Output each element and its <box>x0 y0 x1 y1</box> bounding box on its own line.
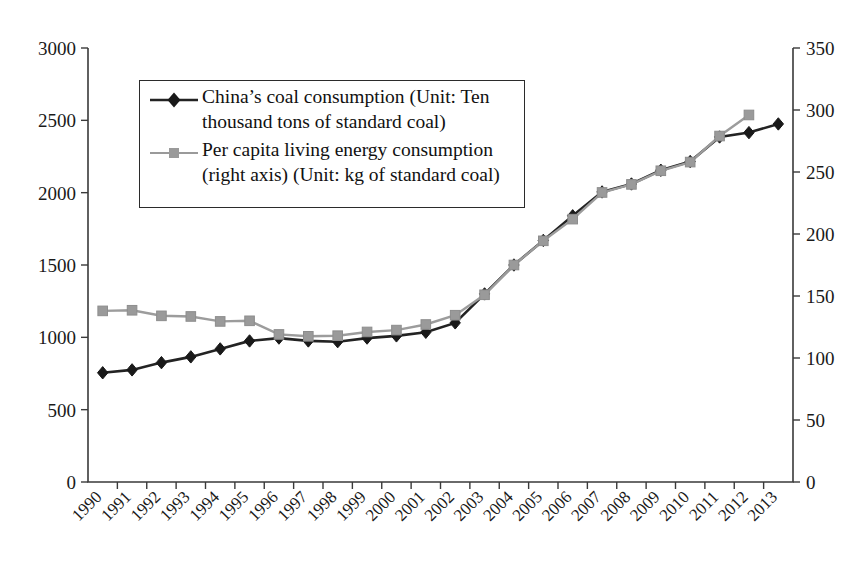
x-axis-tick-label: 2007 <box>567 487 605 525</box>
y-right-tick-label: 200 <box>806 224 835 245</box>
data-point-per-capita-energy <box>597 188 607 198</box>
data-point-per-capita-energy <box>450 310 460 320</box>
data-point-per-capita-energy <box>744 110 754 120</box>
data-point-per-capita-energy <box>421 320 431 330</box>
legend-label-coal-line1: China’s coal consumption (Unit: Ten <box>202 86 490 107</box>
y-right-tick-label: 50 <box>806 410 825 431</box>
data-point-per-capita-energy <box>186 312 196 322</box>
legend-label-energy-line2: (right axis) (Unit: kg of standard coal) <box>202 164 500 185</box>
data-point-per-capita-energy <box>656 166 666 176</box>
x-axis-tick-label: 2010 <box>656 487 693 524</box>
legend-label-per-capita-energy: Per capita living energy consumption (ri… <box>200 137 500 187</box>
y-right-tick-label: 250 <box>806 162 835 183</box>
y-right-tick-label: 150 <box>806 286 835 307</box>
x-axis-tick-label: 2006 <box>538 487 575 524</box>
y-left-tick-label: 1000 <box>38 327 76 348</box>
data-point-per-capita-energy <box>98 306 108 316</box>
x-axis-labels: 1990199119921993199419951996199719981999… <box>68 482 781 525</box>
data-point-per-capita-energy <box>627 180 637 190</box>
y-left-tick-label: 500 <box>48 400 77 421</box>
x-axis-tick-label: 1996 <box>244 487 281 524</box>
data-point-per-capita-energy <box>157 311 167 321</box>
data-point-coal-consumption <box>97 367 107 379</box>
x-axis-tick-label: 1998 <box>303 487 340 524</box>
legend-label-coal-line2: thousand tons of standard coal) <box>202 111 446 132</box>
x-axis-tick-label: 1995 <box>215 487 252 524</box>
x-axis-tick-label: 2005 <box>509 487 546 524</box>
x-axis-tick-label: 2004 <box>479 487 517 525</box>
y-left-tick-label: 0 <box>67 472 77 493</box>
data-point-per-capita-energy <box>509 260 519 270</box>
x-axis-tick-label: 2003 <box>450 487 487 524</box>
data-point-coal-consumption <box>744 126 754 138</box>
x-axis-tick-label: 2009 <box>626 487 663 524</box>
chart-legend: China’s coal consumption (Unit: Ten thou… <box>139 80 525 208</box>
y-right-tick-label: 100 <box>806 348 835 369</box>
x-axis-tick-label: 1994 <box>186 487 224 525</box>
data-point-per-capita-energy <box>274 330 284 340</box>
y-right-tick-label: 350 <box>806 38 835 59</box>
x-axis-tick-label: 1992 <box>127 487 164 524</box>
data-point-per-capita-energy <box>304 332 314 342</box>
x-axis-tick-label: 2008 <box>597 487 634 524</box>
legend-label-energy-line1: Per capita living energy consumption <box>202 139 493 160</box>
x-axis-tick-label: 1991 <box>97 487 134 524</box>
y-left-tick-label: 1500 <box>38 255 76 276</box>
data-point-coal-consumption <box>186 351 196 363</box>
chart-container: 0500100015002000250030000501001502002503… <box>0 0 868 563</box>
x-axis-tick-label: 2000 <box>362 487 399 524</box>
x-axis-tick-label: 1999 <box>332 487 369 524</box>
legend-entry-coal-consumption: China’s coal consumption (Unit: Ten thou… <box>140 81 524 134</box>
data-point-per-capita-energy <box>215 317 225 327</box>
data-point-coal-consumption <box>773 118 783 130</box>
x-axis-tick-label: 2001 <box>391 487 428 524</box>
x-axis-tick-label: 1997 <box>274 487 312 525</box>
y-left-tick-label: 3000 <box>38 38 76 59</box>
data-point-coal-consumption <box>215 343 225 355</box>
data-point-coal-consumption <box>244 335 254 347</box>
y-right-tick-label: 300 <box>806 100 835 121</box>
data-point-per-capita-energy <box>715 131 725 141</box>
x-axis-tick-label: 1990 <box>68 487 105 524</box>
data-point-coal-consumption <box>127 364 137 376</box>
y-left-tick-label: 2500 <box>38 110 76 131</box>
x-axis-tick-label: 2012 <box>714 487 751 524</box>
x-axis-tick-label: 1993 <box>156 487 193 524</box>
y-right-tick-label: 0 <box>806 472 816 493</box>
data-point-per-capita-energy <box>245 316 255 326</box>
data-point-per-capita-energy <box>392 325 402 335</box>
x-axis-tick-label: 2013 <box>744 487 781 524</box>
data-point-per-capita-energy <box>362 327 372 337</box>
data-point-per-capita-energy <box>333 331 343 341</box>
y-left-tick-label: 2000 <box>38 183 76 204</box>
data-point-per-capita-energy <box>685 157 695 167</box>
data-point-coal-consumption <box>156 356 166 368</box>
data-point-per-capita-energy <box>127 305 137 315</box>
legend-entry-per-capita-energy: Per capita living energy consumption (ri… <box>140 134 524 187</box>
x-axis-tick-label: 2002 <box>421 487 458 524</box>
legend-marker-square-icon <box>148 140 200 166</box>
data-point-per-capita-energy <box>539 236 549 246</box>
x-axis-tick-label: 2011 <box>685 487 722 524</box>
legend-marker-diamond-icon <box>148 87 200 113</box>
data-point-per-capita-energy <box>480 290 490 300</box>
data-point-per-capita-energy <box>568 214 578 224</box>
legend-label-coal-consumption: China’s coal consumption (Unit: Ten thou… <box>200 84 490 134</box>
